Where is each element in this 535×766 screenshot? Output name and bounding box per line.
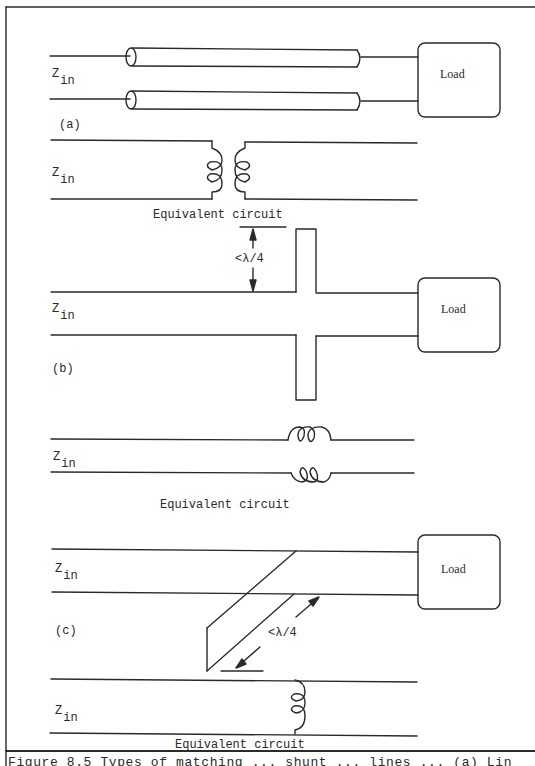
shunt-stub-b — [296, 229, 316, 292]
equivalent-circuit-label-c: Equivalent circuit — [175, 738, 305, 752]
diagonal-stub-c — [207, 551, 296, 671]
dimension-label-c: <λ/4 — [268, 626, 297, 640]
equivalent-circuit-label-b: Equivalent circuit — [160, 498, 290, 512]
load-label-c: Load — [441, 562, 466, 576]
panel-c-stub — [52, 535, 500, 671]
zin-label-b: Zin — [52, 302, 75, 323]
transformer-icon — [207, 141, 249, 199]
inductor-icon-upper — [288, 427, 331, 442]
coax-cable-lower — [126, 91, 360, 110]
panel-b-stub — [51, 227, 500, 400]
figure-frame: Zin Load (a) Zin Equivalent circuit <λ/4… — [0, 0, 535, 766]
panel-c-equivalent-circuit — [50, 679, 417, 736]
panel-b-equivalent-circuit — [51, 427, 414, 482]
panel-label-a: (a) — [59, 118, 81, 132]
dimension-label-b: <λ/4 — [235, 252, 264, 266]
coax-cable-upper — [126, 48, 360, 67]
inductor-icon-lower — [291, 468, 331, 482]
zin-label-a: Zin — [52, 67, 75, 88]
equivalent-zin-label-b: Zin — [53, 450, 76, 471]
panel-a-coax-feed — [50, 43, 500, 117]
zin-label-c: Zin — [55, 562, 78, 583]
shunt-inductor-icon — [291, 680, 305, 734]
equivalent-circuit-label-a: Equivalent circuit — [153, 208, 283, 222]
equivalent-zin-label-a: Zin — [52, 166, 75, 187]
figure-caption: Figure 8.5 Types of matching ... shunt .… — [8, 754, 533, 766]
equivalent-zin-label-c: Zin — [55, 704, 78, 725]
panel-label-b: (b) — [52, 362, 74, 376]
load-label-a: Load — [440, 67, 465, 81]
panel-a-equivalent-circuit — [51, 140, 417, 200]
panel-label-c: (c) — [55, 624, 77, 638]
figure-border — [6, 7, 535, 766]
load-label-b: Load — [441, 302, 466, 316]
